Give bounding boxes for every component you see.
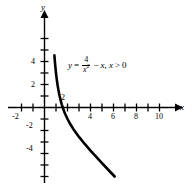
- x-axis-label: x: [180, 103, 184, 112]
- y-tick-label: -2: [26, 122, 33, 130]
- y-tick-label: 4: [31, 58, 35, 66]
- x-tick-label: -2: [12, 113, 19, 121]
- domain-value: 0: [122, 60, 127, 70]
- x-intercept-label: 2: [61, 94, 65, 102]
- equation-annotation: y=4x2−x, x>0: [68, 57, 127, 75]
- coordinate-plot: [0, 0, 192, 193]
- y-axis-label: y: [41, 3, 45, 12]
- equation-fraction: 4x2: [82, 56, 90, 74]
- y-tick-label: -4: [26, 145, 33, 153]
- denominator-exponent: 2: [87, 63, 90, 69]
- equation-equals: =: [72, 60, 81, 70]
- y-tick-label: 2: [31, 81, 35, 89]
- x-tick-label: 8: [134, 113, 138, 121]
- x-tick-label: 6: [111, 113, 115, 121]
- domain-operator: >: [113, 60, 122, 70]
- x-tick-label: 10: [155, 113, 163, 121]
- equation-denominator: x2: [82, 66, 90, 74]
- equation-comma: ,: [104, 60, 106, 70]
- graph-figure: y x -2 4 6 8 10 4 2 -2 -4 2 y=4x2−x, x>0: [0, 0, 192, 193]
- x-tick-label: 4: [88, 113, 92, 121]
